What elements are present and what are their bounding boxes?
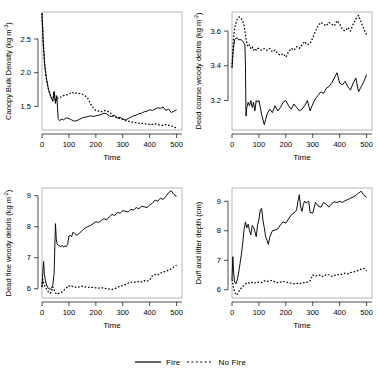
y-tick-label: 9 bbox=[217, 197, 221, 206]
x-axis-title: Time bbox=[103, 321, 121, 330]
y-tick-label: 2.0 bbox=[21, 68, 31, 77]
series-line-fire bbox=[232, 38, 367, 125]
y-tick-label: 2.5 bbox=[21, 35, 31, 44]
series-line-fire bbox=[232, 191, 367, 284]
x-axis-title: Time bbox=[103, 153, 121, 162]
series-line-no-fire bbox=[42, 265, 177, 294]
x-tick-label: 0 bbox=[230, 308, 234, 317]
x-tick-label: 500 bbox=[360, 308, 373, 317]
x-tick-label: 0 bbox=[230, 140, 234, 149]
x-tick-label: 300 bbox=[307, 308, 320, 317]
x-tick-label: 400 bbox=[143, 140, 156, 149]
y-tick-label: 7 bbox=[27, 253, 31, 262]
legend-label-fire: Fire bbox=[166, 358, 181, 367]
x-tick-label: 300 bbox=[307, 140, 320, 149]
series-line-fire bbox=[42, 191, 177, 290]
x-tick-label: 500 bbox=[170, 308, 183, 317]
y-axis-title: Dead fine woody debris (kg m-2) bbox=[3, 189, 13, 296]
x-tick-label: 200 bbox=[90, 140, 103, 149]
legend-label-no-fire: No Fire bbox=[218, 358, 246, 367]
y-axis-title: Canopy Bulk Density (kg m-3) bbox=[3, 22, 13, 120]
panel-duff-and-litter-depth: 01002003004005006789TimeDuff and litter … bbox=[190, 176, 380, 344]
x-axis-title: Time bbox=[293, 321, 311, 330]
series-line-fire bbox=[42, 13, 177, 121]
x-tick-label: 300 bbox=[117, 308, 130, 317]
y-axis-title: Dead coarse woody debris (kg m-2) bbox=[193, 12, 203, 129]
x-tick-label: 500 bbox=[170, 140, 183, 149]
legend-entry-fire: Fire bbox=[134, 358, 181, 367]
x-axis-title: Time bbox=[293, 153, 311, 162]
panel-2-svg: 01002003004005003.23.43.6TimeDead coarse… bbox=[190, 0, 380, 176]
x-tick-label: 400 bbox=[143, 308, 156, 317]
y-tick-label: 6 bbox=[27, 284, 31, 293]
x-tick-label: 100 bbox=[253, 308, 266, 317]
x-tick-label: 100 bbox=[253, 140, 266, 149]
legend-swatch-solid bbox=[134, 358, 162, 366]
y-tick-label: 3.2 bbox=[211, 96, 221, 105]
multi-panel-figure: 01002003004005001.52.02.5TimeCanopy Bulk… bbox=[0, 0, 380, 374]
x-tick-label: 100 bbox=[63, 308, 76, 317]
y-axis-title: Duff and litter depth (cm) bbox=[194, 201, 203, 284]
y-tick-label: 3.6 bbox=[211, 27, 221, 36]
x-tick-label: 200 bbox=[280, 308, 293, 317]
series-line-no-fire bbox=[42, 13, 177, 128]
x-tick-label: 300 bbox=[117, 140, 130, 149]
y-tick-label: 8 bbox=[217, 226, 221, 235]
y-tick-label: 9 bbox=[27, 191, 31, 200]
panel-canopy-bulk-density: 01002003004005001.52.02.5TimeCanopy Bulk… bbox=[0, 0, 190, 176]
x-tick-label: 200 bbox=[90, 308, 103, 317]
series-line-no-fire bbox=[232, 15, 367, 67]
series-line-no-fire bbox=[232, 269, 367, 296]
panel-1-svg: 01002003004005001.52.02.5TimeCanopy Bulk… bbox=[0, 0, 190, 176]
panel-dead-coarse-woody-debris: 01002003004005003.23.43.6TimeDead coarse… bbox=[190, 0, 380, 176]
figure-legend: Fire No Fire bbox=[0, 352, 380, 372]
panel-3-svg: 01002003004005006789TimeDead fine woody … bbox=[0, 176, 190, 344]
panel-grid: 01002003004005001.52.02.5TimeCanopy Bulk… bbox=[0, 0, 380, 344]
x-tick-label: 400 bbox=[333, 308, 346, 317]
panel-dead-fine-woody-debris: 01002003004005006789TimeDead fine woody … bbox=[0, 176, 190, 344]
x-tick-label: 400 bbox=[333, 140, 346, 149]
y-tick-label: 3.4 bbox=[211, 61, 221, 70]
x-tick-label: 200 bbox=[280, 140, 293, 149]
x-tick-label: 0 bbox=[40, 140, 44, 149]
y-tick-label: 7 bbox=[217, 256, 221, 265]
y-tick-label: 8 bbox=[27, 222, 31, 231]
x-tick-label: 100 bbox=[63, 140, 76, 149]
x-tick-label: 500 bbox=[360, 140, 373, 149]
y-tick-label: 6 bbox=[217, 285, 221, 294]
y-tick-label: 1.5 bbox=[21, 102, 31, 111]
panel-4-svg: 01002003004005006789TimeDuff and litter … bbox=[190, 176, 380, 344]
legend-swatch-dotted bbox=[186, 358, 214, 366]
legend-entry-no-fire: No Fire bbox=[186, 358, 246, 367]
x-tick-label: 0 bbox=[40, 308, 44, 317]
